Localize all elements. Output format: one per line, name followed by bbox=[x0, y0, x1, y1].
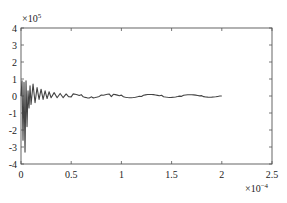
y-multiplier-label: ×105 bbox=[22, 12, 42, 24]
x-multiplier-label: ×10−4 bbox=[245, 182, 269, 194]
line-chart: 43210-1-2-3-4 00.511.522.5 ×105 ×10−4 bbox=[0, 0, 287, 203]
y-tick-label: 3 bbox=[12, 40, 17, 51]
x-tick-label: 1.5 bbox=[165, 169, 178, 180]
x-tick-label: 0.5 bbox=[65, 169, 78, 180]
x-tick-label: 0 bbox=[19, 169, 24, 180]
y-tick-label: 4 bbox=[12, 23, 17, 34]
y-tick-label: -2 bbox=[9, 125, 17, 136]
y-tick-label: -3 bbox=[9, 142, 17, 153]
y-tick-label: 1 bbox=[12, 74, 17, 85]
x-tick-label: 1 bbox=[119, 169, 124, 180]
y-tick-label: -1 bbox=[9, 108, 17, 119]
y-tick-label: 2 bbox=[12, 57, 17, 68]
y-tick-label: 0 bbox=[12, 91, 17, 102]
x-tick-label: 2.5 bbox=[266, 169, 279, 180]
y-tick-label: -4 bbox=[9, 159, 17, 170]
x-tick-label: 2 bbox=[219, 169, 224, 180]
